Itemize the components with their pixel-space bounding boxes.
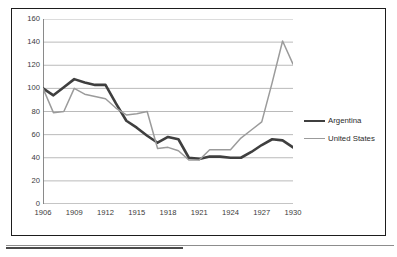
legend-item-united-states: United States	[304, 131, 397, 146]
y-tick-label-140: 140	[14, 38, 40, 46]
y-tick-label-80: 80	[14, 108, 40, 116]
y-axis: 160140120100806040200	[12, 19, 40, 204]
legend-label-united-states: United States	[328, 135, 375, 143]
x-tick-label-1906: 1906	[26, 208, 60, 217]
y-tick-label-20: 20	[14, 177, 40, 185]
chart-legend: Argentina United States	[304, 113, 397, 149]
x-tick-label-1924: 1924	[214, 208, 248, 217]
y-tick-label-40: 40	[14, 154, 40, 162]
x-axis: 190619091912191519181921192419271930	[43, 208, 293, 222]
x-tick-label-1927: 1927	[245, 208, 279, 217]
legend-label-argentina: Argentina	[328, 117, 361, 125]
y-tick-label-160: 160	[14, 15, 40, 23]
legend-line-swatch-united-states	[304, 138, 325, 139]
x-tick-label-1909: 1909	[57, 208, 91, 217]
y-tick-label-100: 100	[14, 85, 40, 93]
plot-area	[43, 19, 293, 204]
y-tick-label-120: 120	[14, 61, 40, 69]
legend-line-swatch-argentina	[304, 120, 325, 122]
legend-item-argentina: Argentina	[304, 113, 397, 128]
page-separator-rule-dark	[6, 247, 183, 249]
x-tick-label-1918: 1918	[151, 208, 185, 217]
chart-frame: 160140120100806040200 190619091912191519…	[11, 8, 386, 236]
y-tick-label-60: 60	[14, 131, 40, 139]
series-line-united-states	[43, 41, 293, 160]
x-tick-label-1915: 1915	[120, 208, 154, 217]
chart-screenshot: 160140120100806040200 190619091912191519…	[0, 0, 397, 257]
x-tick-label-1930: 1930	[276, 208, 310, 217]
y-tick-label-0: 0	[14, 200, 40, 208]
x-tick-label-1912: 1912	[89, 208, 123, 217]
line-chart-svg	[43, 19, 293, 204]
x-tick-label-1921: 1921	[182, 208, 216, 217]
